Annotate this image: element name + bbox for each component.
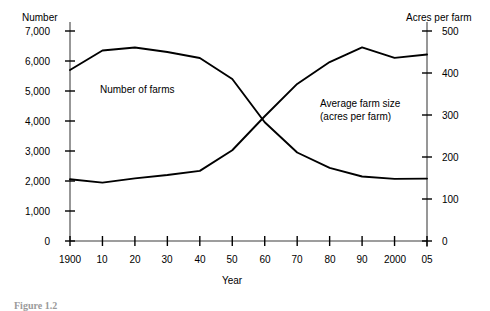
series-line-average-farm-size	[70, 47, 427, 182]
series-line-number-of-farms	[70, 48, 427, 179]
chart-plot-area	[0, 0, 490, 311]
series-layer	[70, 47, 427, 182]
figure-container: Number Acres per farm 7,000 6,000 5,000 …	[0, 0, 490, 311]
